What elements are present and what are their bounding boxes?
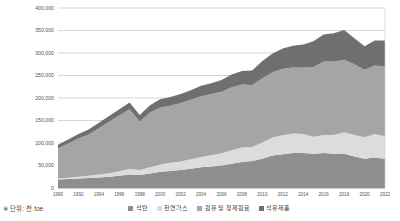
legend-swatch-icon bbox=[157, 206, 162, 211]
legend-label: 천연가스 bbox=[164, 205, 188, 211]
y-tick-label: 100,000 bbox=[35, 140, 54, 146]
y-tick-label: 50,000 bbox=[38, 162, 54, 168]
x-tick-label: 1996 bbox=[114, 192, 125, 197]
x-tick-label: 2012 bbox=[278, 192, 289, 197]
x-tick-label: 2002 bbox=[176, 192, 187, 197]
legend-label: 석탄 bbox=[136, 205, 148, 211]
x-tick-label: 2004 bbox=[196, 192, 207, 197]
x-tick-label: 1998 bbox=[135, 192, 146, 197]
y-tick-label: 150,000 bbox=[35, 117, 54, 123]
y-tick-label: 350,000 bbox=[35, 27, 54, 33]
chart-canvas: 050,000100,000150,000200,000250,000300,0… bbox=[0, 0, 400, 200]
stacked-area-chart: 050,000100,000150,000200,000250,000300,0… bbox=[0, 0, 400, 221]
x-tick-label: 2016 bbox=[319, 192, 330, 197]
x-tick-label: 1994 bbox=[94, 192, 105, 197]
x-tick-label: 2020 bbox=[359, 192, 370, 197]
x-tick-label: 1990 bbox=[53, 192, 64, 197]
x-tick-label: 2000 bbox=[155, 192, 166, 197]
x-tick-label: 1992 bbox=[73, 192, 84, 197]
x-tick-label: 2014 bbox=[298, 192, 309, 197]
y-tick-label: 0 bbox=[51, 185, 54, 191]
legend-label: 원유 및 정제원료 bbox=[205, 205, 250, 211]
legend-item[interactable]: 석유제품 bbox=[259, 205, 291, 211]
legend-swatch-icon bbox=[128, 206, 133, 211]
legend-item[interactable]: 천연가스 bbox=[157, 205, 189, 211]
unit-footnote: ※ 단위: 천 toe bbox=[3, 204, 43, 213]
x-axis-ticks: 1990199219941996199820002002200420062008… bbox=[53, 192, 391, 197]
y-tick-label: 250,000 bbox=[35, 72, 54, 78]
area-series-group bbox=[58, 30, 385, 188]
legend-item[interactable]: 원유 및 정제원료 bbox=[197, 205, 250, 211]
y-tick-label: 200,000 bbox=[35, 95, 54, 101]
legend-label: 석유제품 bbox=[266, 205, 290, 211]
x-tick-label: 2008 bbox=[237, 192, 248, 197]
y-tick-label: 400,000 bbox=[35, 5, 54, 11]
legend-swatch-icon bbox=[197, 206, 202, 211]
y-axis-ticks: 050,000100,000150,000200,000250,000300,0… bbox=[35, 5, 54, 191]
legend-item[interactable]: 석탄 bbox=[128, 205, 148, 211]
plot-area: 050,000100,000150,000200,000250,000300,0… bbox=[0, 0, 400, 200]
x-tick-label: 2006 bbox=[216, 192, 227, 197]
x-tick-label: 2022 bbox=[380, 192, 391, 197]
y-tick-label: 300,000 bbox=[35, 50, 54, 56]
x-tick-label: 2018 bbox=[339, 192, 350, 197]
chart-legend: 석탄천연가스원유 및 정제원료석유제품 bbox=[128, 205, 290, 211]
legend-swatch-icon bbox=[259, 206, 264, 211]
x-tick-label: 2010 bbox=[257, 192, 268, 197]
